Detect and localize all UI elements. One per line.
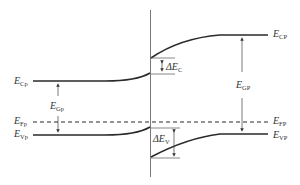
label-egp-right: EGP (235, 79, 251, 91)
band-diagram: ECp EGp EFp EVp ECP EGP EFP EVP ΔEC ΔEV (0, 0, 300, 185)
left-conduction-band (33, 73, 150, 81)
label-ecp-left: ECp (13, 75, 28, 87)
label-evp-left: EVp (13, 128, 28, 140)
label-efp-right: EFP (272, 115, 287, 127)
left-valence-band (33, 127, 150, 135)
label-egp-left: EGp (49, 100, 64, 112)
label-evp-right: EVP (272, 129, 288, 141)
label-delta-ev: ΔEV (152, 133, 170, 145)
right-conduction-band (151, 35, 268, 58)
label-ecp-right: ECP (272, 28, 287, 40)
label-efp-left: EFp (13, 115, 27, 127)
label-delta-ec: ΔEC (165, 61, 182, 73)
